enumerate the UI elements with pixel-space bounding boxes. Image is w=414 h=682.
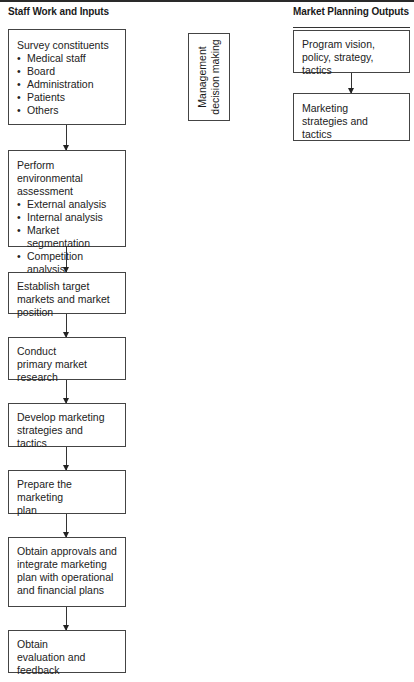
step-title: Perform environmental assessment [17, 159, 117, 198]
management-decision-box: Management decision making [188, 33, 230, 121]
step-title: Establish target markets and market posi… [17, 280, 117, 319]
step-title: Prepare the marketing plan [17, 478, 117, 517]
output-marketing-strategies: Marketing strategies and tactics [293, 93, 410, 141]
step-title: Survey constituents [17, 39, 117, 52]
step-obtain-approvals: Obtain approvals and integrate marketing… [8, 537, 126, 607]
bullet-item: Internal analysis [17, 211, 117, 224]
bullet-item: External analysis [17, 198, 117, 211]
bullet-item: Board [17, 65, 117, 78]
bullet-item: Market segmentation [17, 224, 117, 250]
flow-arrow [66, 125, 67, 150]
right-column-rule [293, 27, 410, 28]
flow-arrow [66, 314, 67, 337]
bullet-item: Medical staff [17, 52, 117, 65]
step-title: Obtain evaluation and feedback [17, 638, 117, 677]
step-evaluation-feedback: Obtain evaluation and feedback [8, 630, 126, 673]
left-column-title: Staff Work and Inputs [8, 6, 109, 17]
flow-arrow [351, 73, 352, 93]
bullet-item: Others [17, 104, 117, 117]
step-target-markets: Establish target markets and market posi… [8, 272, 126, 314]
flow-arrow [66, 607, 67, 630]
output-title: Program vision, policy, strategy, tactic… [302, 38, 401, 77]
step-title: Obtain approvals and integrate marketing… [17, 545, 117, 597]
flow-arrow [66, 380, 67, 403]
step-survey-constituents: Survey constituents Medical staff Board … [8, 29, 126, 125]
top-rule [0, 0, 414, 2]
flow-arrow [66, 447, 67, 470]
output-program-vision: Program vision, policy, strategy, tactic… [293, 30, 410, 73]
step-prepare-plan: Prepare the marketing plan [8, 470, 126, 514]
flow-arrow [66, 514, 67, 537]
step-title: Conduct primary market research [17, 345, 117, 384]
step-bullets: Medical staff Board Administration Patie… [17, 52, 117, 117]
output-title: Marketing strategies and tactics [302, 102, 401, 141]
flow-arrow [66, 247, 67, 272]
step-develop-strategies: Develop marketing strategies and tactics [8, 403, 126, 447]
right-column-title: Market Planning Outputs [293, 6, 409, 17]
bullet-item: Administration [17, 78, 117, 91]
step-environmental-assessment: Perform environmental assessment Externa… [8, 150, 126, 247]
step-bullets: External analysis Internal analysis Mark… [17, 198, 117, 276]
management-label: Management decision making [196, 39, 222, 114]
step-title: Develop marketing strategies and tactics [17, 411, 117, 450]
bullet-item: Patients [17, 91, 117, 104]
step-primary-research: Conduct primary market research [8, 337, 126, 380]
